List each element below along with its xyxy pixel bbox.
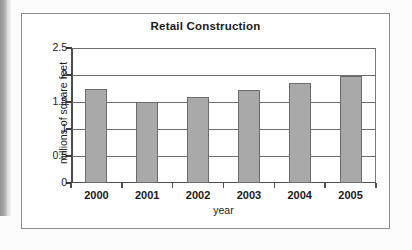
x-tick [121,183,123,188]
plot-area: 2.521.510.50 200020012002200320042005 [71,48,376,183]
y-tick-label: 2 [27,69,67,80]
bar [289,83,311,183]
x-axis-title: year [71,204,376,216]
scan-edge-artifact [0,0,7,216]
y-tick-label: 0 [27,177,67,188]
bar [238,90,260,183]
gridline [71,156,376,157]
bar [187,97,209,183]
gridline [71,129,376,130]
gridline [71,75,376,76]
chart-title: Retail Construction [22,20,389,32]
x-tick [223,183,225,188]
x-tick [70,183,72,188]
y-axis-line [71,48,73,183]
y-tick-label: 1 [27,123,67,134]
gridline [71,102,376,103]
x-tick [375,183,377,188]
chart-figure-frame: Retail Construction millions of square f… [21,13,390,229]
y-tick-label: 2.5 [27,42,67,53]
scan-edge-artifact-shadow [7,0,11,216]
x-tick [274,183,276,188]
x-tick [324,183,326,188]
bar [136,102,158,183]
x-tick [172,183,174,188]
bar [340,76,362,183]
gridline [71,48,376,49]
plot-right-border [375,48,377,183]
y-tick-label: 0.5 [27,150,67,161]
y-axis-title: millions of square feet [57,43,69,183]
bar [85,89,107,184]
y-tick-label: 1.5 [27,96,67,107]
x-tick-label: 2005 [321,189,381,201]
